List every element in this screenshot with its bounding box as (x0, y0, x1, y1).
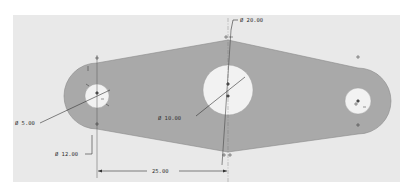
point-marker-icon (95, 56, 99, 60)
point-marker-icon (228, 153, 232, 157)
dim-25-arrow-right (223, 170, 227, 173)
dim-dia-10[interactable]: Ø 10.00 (158, 115, 181, 121)
dim-25-arrow-left (98, 170, 102, 173)
center-point-icon (227, 95, 230, 98)
dim-dia-20[interactable]: Ø 20.00 (240, 17, 263, 23)
point-marker-icon (224, 35, 228, 39)
dim-dia-5[interactable]: Ø 5.00 (15, 120, 35, 126)
center-point-icon (96, 92, 99, 95)
dim-dia-12[interactable]: Ø 12.00 (55, 151, 78, 157)
point-marker-icon (356, 55, 360, 59)
leader-dia-12 (85, 135, 92, 154)
dim-linear-25[interactable]: 25.00 (152, 168, 169, 174)
center-point-icon (357, 100, 360, 103)
leader-dia-20 (231, 20, 238, 30)
sketch-graphics[interactable]: Ø 20.00 Ø 5.00 Ø 10.00 Ø 12.00 25.00 (0, 0, 412, 191)
center-point-icon (227, 83, 230, 86)
